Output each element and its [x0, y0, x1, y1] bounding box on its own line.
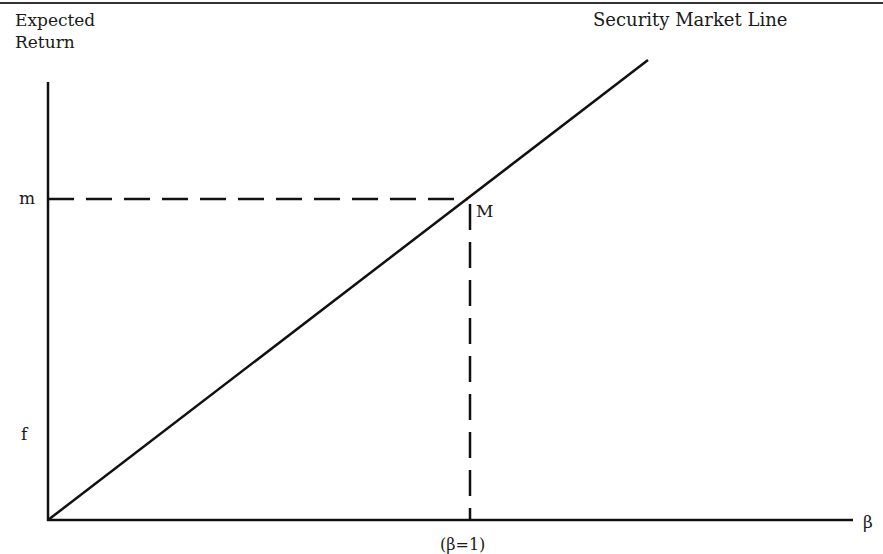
sml-diagram-canvas [0, 0, 883, 554]
y-axis-label-expected: Expected [15, 10, 95, 30]
y-tick-f: f [21, 424, 27, 444]
y-axis-label-return: Return [15, 32, 75, 52]
market-point-label: M [476, 201, 493, 221]
y-tick-m: m [19, 188, 35, 208]
x-axis-label-beta: β [863, 512, 873, 532]
sml-title: Security Market Line [593, 10, 787, 30]
security-market-line [48, 60, 648, 520]
x-tick-beta-one: (β=1) [440, 535, 485, 554]
